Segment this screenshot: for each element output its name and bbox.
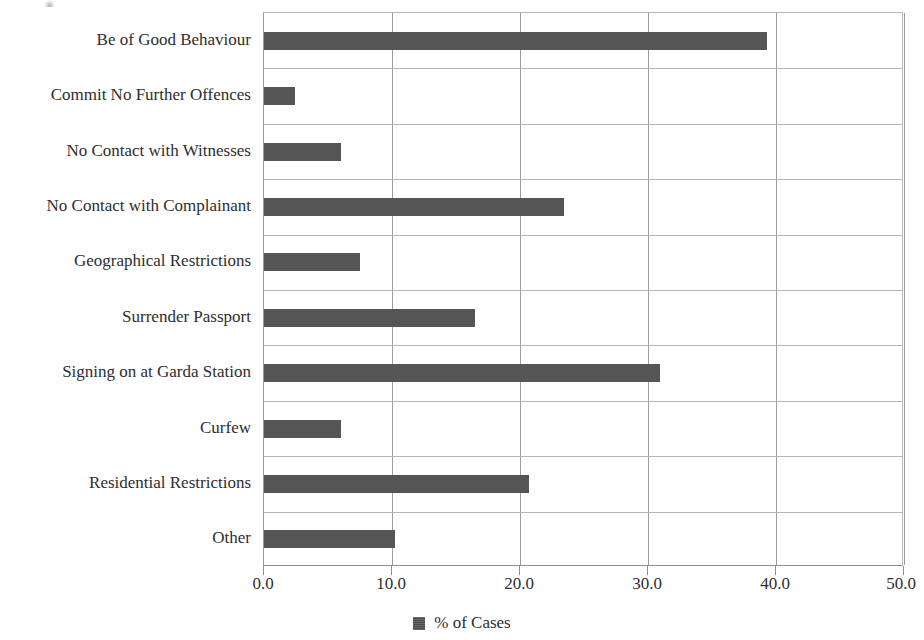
gridline-row-2 — [264, 124, 902, 125]
category-label-curfew: Curfew — [200, 418, 251, 438]
bar-residential-restrictions — [264, 475, 529, 493]
x-tick-label-0: 0.0 — [252, 573, 273, 595]
category-label-no-contact-with-witnesses: No Contact with Witnesses — [66, 141, 251, 161]
plot-area — [263, 12, 903, 566]
category-label-other: Other — [212, 528, 251, 548]
gridline-row-6 — [264, 345, 902, 346]
category-label-commit-no-further-offences: Commit No Further Offences — [51, 85, 251, 105]
gridline-row-9 — [264, 512, 902, 513]
x-tick-label-3: 30.0 — [632, 573, 662, 595]
scan-artifact — [44, 0, 55, 7]
gridline-x-50 — [904, 13, 905, 565]
gridline-row-1 — [264, 68, 902, 69]
category-label-no-contact-with-complainant: No Contact with Complainant — [47, 196, 251, 216]
category-label-residential-restrictions: Residential Restrictions — [89, 473, 251, 493]
x-tick-label-2: 20.0 — [504, 573, 534, 595]
legend-swatch-icon — [413, 617, 425, 630]
category-label-signing-on-at-garda-station: Signing on at Garda Station — [62, 362, 251, 382]
gridline-row-8 — [264, 456, 902, 457]
gridline-row-5 — [264, 290, 902, 291]
legend-label: % of Cases — [434, 613, 510, 633]
chart-legend: % of Cases — [0, 608, 924, 638]
gridline-row-7 — [264, 401, 902, 402]
x-tick-label-1: 10.0 — [376, 573, 406, 595]
bar-chart: Be of Good Behaviour Commit No Further O… — [0, 0, 924, 640]
bar-signing-on-at-garda-station — [264, 364, 660, 382]
bar-geographical-restrictions — [264, 253, 360, 271]
bar-surrender-passport — [264, 309, 475, 327]
bar-commit-no-further-offences — [264, 87, 295, 105]
category-label-geographical-restrictions: Geographical Restrictions — [74, 251, 251, 271]
gridline-x-40 — [776, 13, 777, 565]
bar-be-of-good-behaviour — [264, 32, 767, 50]
x-tick-label-5: 50.0 — [886, 573, 916, 595]
bar-curfew — [264, 420, 341, 438]
x-tick-label-4: 40.0 — [760, 573, 790, 595]
bar-other — [264, 530, 395, 548]
gridline-row-3 — [264, 179, 902, 180]
gridline-row-4 — [264, 235, 902, 236]
gridline-x-30 — [648, 13, 649, 565]
category-axis-labels: Be of Good Behaviour Commit No Further O… — [0, 12, 257, 566]
bar-no-contact-with-complainant — [264, 198, 564, 216]
bar-no-contact-with-witnesses — [264, 143, 341, 161]
category-label-be-of-good-behaviour: Be of Good Behaviour — [97, 30, 251, 50]
category-label-surrender-passport: Surrender Passport — [122, 307, 251, 327]
x-axis-tick-labels: 0.0 10.0 20.0 30.0 40.0 50.0 — [0, 573, 924, 597]
